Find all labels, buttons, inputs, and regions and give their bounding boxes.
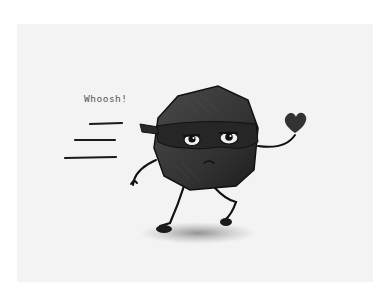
left-arm xyxy=(131,160,156,185)
rock-ninja-illustration xyxy=(0,0,392,298)
speed-lines-icon xyxy=(65,123,122,158)
heart-icon xyxy=(285,113,306,133)
mask-tail xyxy=(140,124,158,134)
left-foot xyxy=(156,225,172,233)
ninja-mask xyxy=(156,121,258,149)
ground-shadow xyxy=(140,222,256,244)
right-arm xyxy=(258,135,295,147)
right-foot xyxy=(220,218,232,226)
